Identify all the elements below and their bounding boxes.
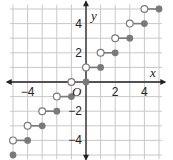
closed-dot-icon [126, 35, 133, 42]
step-function-graph: −42442−2−4 x y O [0, 0, 173, 160]
y-tick-label: 4 [75, 17, 82, 31]
open-dot-icon [112, 35, 119, 42]
y-tick-label: −4 [68, 133, 82, 147]
open-dot-icon [126, 20, 133, 27]
closed-dot-icon [39, 122, 46, 129]
y-axis-label: y [89, 8, 97, 23]
y-arrow-down-icon [83, 155, 89, 160]
x-axis-label: x [149, 65, 156, 80]
open-dot-icon [39, 108, 46, 115]
open-dot-icon [10, 137, 17, 144]
open-dot-icon [141, 6, 148, 13]
closed-dot-icon [112, 49, 119, 56]
x-tick-label: −4 [21, 85, 35, 99]
open-dot-icon [83, 64, 90, 71]
closed-dot-icon [97, 64, 104, 71]
closed-dot-icon [156, 6, 163, 13]
x-tick-label: 2 [112, 85, 119, 99]
x-arrow-right-icon [160, 79, 166, 85]
y-arrow-up-icon [83, 0, 89, 6]
y-tick-label: 2 [75, 46, 82, 60]
closed-dot-icon [53, 108, 60, 115]
open-dot-icon [24, 122, 31, 129]
closed-dot-icon [10, 152, 17, 159]
open-dot-icon [97, 49, 104, 56]
closed-dot-icon [24, 137, 31, 144]
x-arrow-left-icon [6, 79, 12, 85]
x-tick-label: 4 [141, 85, 148, 99]
origin-label: O [72, 84, 82, 99]
closed-dot-icon [83, 79, 90, 86]
open-dot-icon [53, 93, 60, 100]
closed-dot-icon [141, 20, 148, 27]
y-tick-label: −2 [68, 104, 82, 118]
